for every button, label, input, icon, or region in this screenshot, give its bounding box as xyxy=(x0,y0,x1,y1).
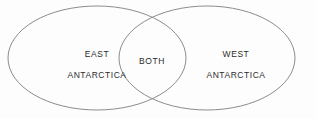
right-set-label: WEST ANTARCTICA xyxy=(178,38,294,91)
venn-diagram: EAST ANTARCTICA BOTH WEST ANTARCTICA xyxy=(0,0,316,118)
right-set-label-line-1: WEST xyxy=(178,49,294,60)
right-set-label-line-2: ANTARCTICA xyxy=(178,70,294,81)
intersection-label-text: BOTH xyxy=(122,56,182,67)
intersection-label: BOTH xyxy=(122,45,182,77)
